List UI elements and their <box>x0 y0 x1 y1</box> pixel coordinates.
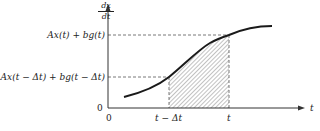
y-tick-lower: Ax(t − Δt) + bg(t − Δt) <box>1 73 105 82</box>
y-tick-upper: Ax(t) + bg(t) <box>47 31 105 40</box>
x-axis-label: t <box>310 104 314 113</box>
derivative-integral-diagram: dx dt t Ax(t) + bg(t) Ax(t − Δt) + bg(t … <box>0 0 320 131</box>
x-tick-left-bound: t − Δt <box>155 114 182 123</box>
x-tick-right-bound: t <box>227 114 231 123</box>
x-tick-origin: 0 <box>106 114 112 123</box>
y-label-denominator: dt <box>98 12 114 21</box>
y-tick-origin: 0 <box>97 104 103 113</box>
y-label-numerator: dx <box>98 2 114 12</box>
y-axis-label: dx dt <box>98 2 114 21</box>
plot-canvas <box>0 0 320 131</box>
